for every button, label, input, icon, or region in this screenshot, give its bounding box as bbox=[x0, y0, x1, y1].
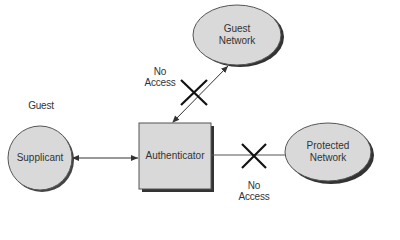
supplicant-label: Supplicant bbox=[8, 150, 72, 166]
authenticator-guest-link bbox=[173, 66, 228, 122]
no-access-label-protected: No Access bbox=[234, 180, 274, 202]
blocked-x-icon bbox=[242, 144, 266, 168]
supplicant-caption: Guest bbox=[26, 100, 56, 111]
no-access-label-guest: No Access bbox=[140, 66, 180, 88]
protected-network-label: Protected Network bbox=[288, 139, 368, 165]
authenticator-label: Authenticator bbox=[139, 148, 211, 164]
guest-network-label: Guest Network bbox=[197, 22, 277, 48]
